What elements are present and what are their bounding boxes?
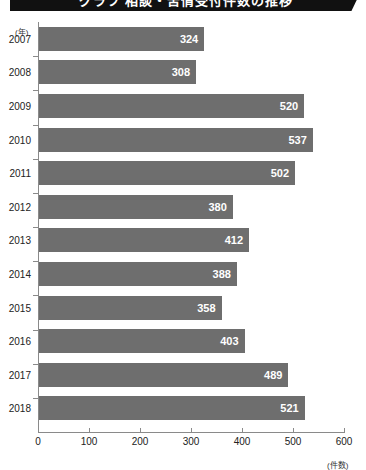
bar-value-label: 388 <box>213 268 231 279</box>
bar: 412 <box>39 228 249 252</box>
bar-category-label: 2011 <box>0 168 31 179</box>
y-axis-tick <box>33 398 38 399</box>
x-axis-tick-label: 600 <box>324 436 364 447</box>
bar-value-label: 308 <box>172 67 190 78</box>
x-axis-tick-label: 400 <box>222 436 262 447</box>
x-axis-tick-label: 500 <box>273 436 313 447</box>
bar-category-label: 2007 <box>0 33 31 44</box>
bar-value-label: 520 <box>280 100 298 111</box>
bar-value-label: 502 <box>271 168 289 179</box>
bar: 358 <box>39 296 222 320</box>
bar-category-label: 2015 <box>0 302 31 313</box>
bar-row: 2015358 <box>0 291 366 325</box>
x-axis-tick <box>344 428 345 433</box>
x-axis-tick-label: 0 <box>18 436 58 447</box>
bar-rows: 2007324200830820095202010537201150220123… <box>0 22 366 432</box>
bar-value-label: 380 <box>208 201 226 212</box>
chart-title-banner: グラフ 相談・苦情受付件数の推移 <box>10 0 362 11</box>
y-axis-tick <box>33 364 38 365</box>
bar-category-label: 2018 <box>0 403 31 414</box>
bar-category-label: 2016 <box>0 336 31 347</box>
x-axis-tick <box>191 428 192 433</box>
x-axis-tick <box>140 428 141 433</box>
bar-row: 2011502 <box>0 156 366 190</box>
bar-value-label: 324 <box>180 33 198 44</box>
x-axis-tick <box>242 428 243 433</box>
y-axis-tick <box>33 261 38 262</box>
bar-value-label: 537 <box>289 134 307 145</box>
y-axis-tick <box>33 90 38 91</box>
x-axis-tick <box>293 428 294 433</box>
bar-row: 2007324 <box>0 22 366 56</box>
bar: 489 <box>39 363 288 387</box>
bar-row: 2017489 <box>0 358 366 392</box>
x-axis-tick <box>89 428 90 433</box>
bar-category-label: 2013 <box>0 235 31 246</box>
chart-title: グラフ 相談・苦情受付件数の推移 <box>10 0 362 9</box>
bar-chart: (年) (件数) 2007324200830820095202010537201… <box>0 12 366 466</box>
bar-row: 2012380 <box>0 190 366 224</box>
y-axis-tick <box>33 227 38 228</box>
bar-row: 2014388 <box>0 257 366 291</box>
bar-value-label: 358 <box>197 302 215 313</box>
x-axis-tick-label: 200 <box>120 436 160 447</box>
bar-value-label: 489 <box>264 369 282 380</box>
bar: 308 <box>39 60 196 84</box>
bar-category-label: 2017 <box>0 369 31 380</box>
y-axis-tick <box>33 295 38 296</box>
bar-category-label: 2014 <box>0 268 31 279</box>
x-axis-unit-label: (件数) <box>327 459 348 470</box>
bar-row: 2018521 <box>0 392 366 426</box>
x-axis-tick-label: 300 <box>171 436 211 447</box>
y-axis-tick <box>33 159 38 160</box>
bar: 388 <box>39 262 237 286</box>
bar-category-label: 2008 <box>0 67 31 78</box>
x-axis-tick <box>38 428 39 433</box>
y-axis-tick <box>33 125 38 126</box>
bar-category-label: 2012 <box>0 201 31 212</box>
bar-row: 2010537 <box>0 123 366 157</box>
y-axis-tick <box>33 56 38 57</box>
bar: 537 <box>39 128 313 152</box>
bar: 403 <box>39 329 245 353</box>
bar-category-label: 2010 <box>0 134 31 145</box>
bar-value-label: 521 <box>280 403 298 414</box>
bar: 380 <box>39 195 233 219</box>
bar-row: 2009520 <box>0 89 366 123</box>
x-axis-tick-label: 100 <box>69 436 109 447</box>
bar-row: 2016403 <box>0 324 366 358</box>
bar: 521 <box>39 396 305 420</box>
bar-value-label: 403 <box>220 336 238 347</box>
bar-category-label: 2009 <box>0 100 31 111</box>
bar: 520 <box>39 94 304 118</box>
bar-row: 2013412 <box>0 224 366 258</box>
y-axis-tick <box>33 330 38 331</box>
bar-value-label: 412 <box>225 235 243 246</box>
bar: 502 <box>39 161 295 185</box>
bar: 324 <box>39 27 204 51</box>
y-axis-tick <box>33 193 38 194</box>
bar-row: 2008308 <box>0 56 366 90</box>
